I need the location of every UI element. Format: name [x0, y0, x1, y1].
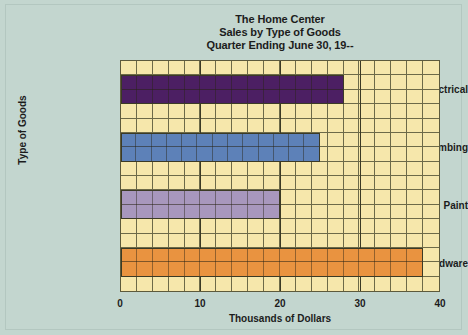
chart-canvas: The Home Center Sales by Type of Goods Q… — [0, 0, 468, 335]
chart-subtitle: Sales by Type of Goods — [120, 26, 440, 39]
x-tick-label-40: 40 — [420, 298, 460, 309]
bar-plumbing[interactable] — [121, 133, 320, 162]
y-axis-title: Type of Goods — [17, 95, 28, 164]
chart-title-block: The Home Center Sales by Type of Goods Q… — [120, 13, 440, 52]
x-tick-label-30: 30 — [340, 298, 380, 309]
x-axis-title: Thousands of Dollars — [120, 313, 440, 324]
x-tick-label-20: 20 — [260, 298, 300, 309]
bar-outline — [121, 75, 344, 104]
chart-subtitle-period: Quarter Ending June 30, 19-- — [120, 39, 440, 52]
chart-title: The Home Center — [120, 13, 440, 26]
bar-electrical[interactable] — [121, 75, 344, 104]
bars-group — [121, 61, 439, 291]
x-tick-label-10: 10 — [180, 298, 220, 309]
bar-paint[interactable] — [121, 190, 280, 219]
plot-area — [120, 60, 440, 292]
bar-outline — [121, 248, 423, 277]
bar-hardware[interactable] — [121, 248, 423, 277]
bar-outline — [121, 190, 280, 219]
x-tick-label-0: 0 — [100, 298, 140, 309]
bar-outline — [121, 133, 320, 162]
